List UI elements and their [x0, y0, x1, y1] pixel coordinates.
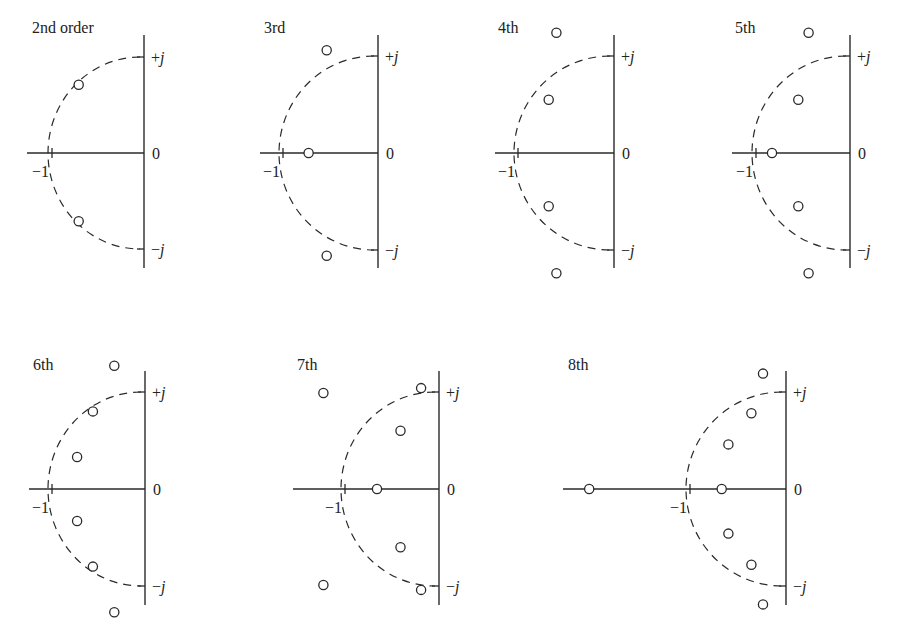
label-plus-j-symbol: j — [628, 48, 635, 66]
pole-marker — [747, 409, 756, 418]
label-minus-j: −j — [857, 242, 871, 260]
label-minus-j-symbol: j — [158, 241, 165, 259]
label-plus-j: +j — [151, 49, 165, 67]
pole-marker — [417, 585, 426, 594]
panel-title: 7th — [297, 356, 317, 373]
label-minus-one: −1 — [736, 163, 753, 180]
label-minus-j: −j — [385, 242, 399, 260]
pole-marker — [319, 388, 328, 397]
label-plus-j-symbol: j — [800, 384, 807, 402]
label-minus-j-sign: − — [621, 242, 630, 259]
label-origin: 0 — [386, 145, 394, 162]
panel-title: 4th — [498, 19, 518, 36]
panel-title: 8th — [568, 356, 588, 373]
pole-marker — [724, 529, 733, 538]
pole-marker — [724, 440, 733, 449]
label-minus-j-sign: − — [446, 578, 455, 595]
label-minus-j-symbol: j — [453, 578, 460, 596]
pole-marker — [717, 484, 726, 493]
label-minus-j-symbol: j — [864, 242, 871, 260]
pole-marker — [747, 560, 756, 569]
pole-marker — [758, 369, 767, 378]
pole-marker — [552, 28, 561, 37]
pole-marker — [767, 148, 776, 157]
label-origin: 0 — [152, 145, 160, 162]
label-minus-one: −1 — [32, 163, 49, 180]
label-minus-one: −1 — [498, 163, 515, 180]
label-plus-j: +j — [152, 384, 166, 402]
label-minus-j-symbol: j — [392, 242, 399, 260]
pole-marker — [794, 95, 803, 104]
label-origin: 0 — [794, 481, 802, 498]
panel-order-2: 2nd order+j−j0−1 — [27, 19, 165, 268]
label-minus-j: −j — [793, 578, 807, 596]
panel-order-8: 8th+j−j0−1 — [563, 356, 807, 609]
label-minus-j-sign: − — [793, 578, 802, 595]
pole-marker — [74, 80, 83, 89]
pole-marker — [544, 202, 553, 211]
pole-marker — [322, 46, 331, 55]
label-plus-j-sign: + — [446, 384, 455, 401]
label-origin: 0 — [858, 145, 866, 162]
label-origin: 0 — [622, 145, 630, 162]
label-plus-j-sign: + — [857, 48, 866, 65]
panel-title: 2nd order — [32, 19, 94, 36]
label-minus-j-symbol: j — [800, 578, 807, 596]
pole-marker — [585, 484, 594, 493]
label-minus-one: −1 — [263, 163, 280, 180]
label-plus-j: +j — [446, 384, 460, 402]
pole-marker — [88, 407, 97, 416]
pole-marker — [110, 361, 119, 370]
panel-title: 5th — [735, 19, 755, 36]
pole-marker — [758, 600, 767, 609]
label-minus-j: −j — [621, 242, 635, 260]
label-minus-j-symbol: j — [628, 242, 635, 260]
pole-marker — [88, 562, 97, 571]
pole-marker — [304, 148, 313, 157]
label-plus-j: +j — [621, 48, 635, 66]
label-plus-j-symbol: j — [158, 49, 165, 67]
label-plus-j: +j — [385, 48, 399, 66]
label-plus-j: +j — [857, 48, 871, 66]
pole-marker — [544, 95, 553, 104]
pole-marker — [73, 516, 82, 525]
panel-order-7: 7th+j−j0−1 — [293, 356, 460, 605]
pole-marker — [396, 426, 405, 435]
panel-order-3: 3rd+j−j0−1 — [260, 19, 399, 268]
label-plus-j-symbol: j — [453, 384, 460, 402]
pole-marker — [372, 484, 381, 493]
label-origin: 0 — [153, 481, 161, 498]
label-minus-j-sign: − — [857, 242, 866, 259]
label-minus-j: −j — [446, 578, 460, 596]
label-plus-j-sign: + — [385, 48, 394, 65]
pole-marker — [110, 608, 119, 617]
label-plus-j-symbol: j — [392, 48, 399, 66]
label-origin: 0 — [447, 481, 455, 498]
pole-marker — [804, 269, 813, 278]
pole-marker — [417, 384, 426, 393]
label-minus-one: −1 — [325, 499, 342, 516]
label-plus-j-sign: + — [151, 49, 160, 66]
label-minus-j: −j — [152, 578, 166, 596]
label-minus-one: −1 — [670, 499, 687, 516]
panel-title: 3rd — [264, 19, 285, 36]
label-minus-one: −1 — [32, 499, 49, 516]
label-minus-j: −j — [151, 241, 165, 259]
label-minus-j-sign: − — [385, 242, 394, 259]
label-plus-j-symbol: j — [864, 48, 871, 66]
pole-marker — [73, 452, 82, 461]
label-minus-j-symbol: j — [159, 578, 166, 596]
pole-marker — [794, 202, 803, 211]
pole-location-figure: 2nd order+j−j0−13rd+j−j0−14th+j−j0−15th+… — [0, 0, 900, 639]
pole-marker — [396, 543, 405, 552]
label-plus-j-symbol: j — [159, 384, 166, 402]
label-minus-j-sign: − — [151, 241, 160, 258]
label-minus-j-sign: − — [152, 578, 161, 595]
panel-order-5: 5th+j−j0−1 — [732, 19, 871, 278]
panel-order-4: 4th+j−j0−1 — [495, 19, 635, 278]
label-plus-j-sign: + — [793, 384, 802, 401]
panel-order-6: 6th+j−j0−1 — [29, 356, 166, 617]
pole-marker — [74, 217, 83, 226]
label-plus-j: +j — [793, 384, 807, 402]
label-plus-j-sign: + — [152, 384, 161, 401]
